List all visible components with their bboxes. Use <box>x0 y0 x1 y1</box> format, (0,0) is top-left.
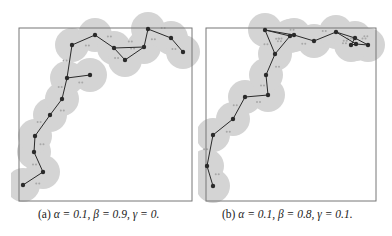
caption-a: (a) α = 0.1, β = 0.9, γ = 0. <box>38 208 159 220</box>
caption-a-params: α = 0.1, β = 0.9, γ = 0. <box>54 208 160 220</box>
figure-canvas <box>0 0 392 236</box>
panel-b-plot <box>190 13 385 203</box>
caption-b-label: (b) <box>222 208 235 220</box>
caption-a-label: (a) <box>38 208 51 220</box>
caption-b: (b) α = 0.1, β = 0.8, γ = 0.1. <box>222 208 353 220</box>
panel-a-plot <box>6 12 200 202</box>
caption-b-params: α = 0.1, β = 0.8, γ = 0.1. <box>238 208 352 220</box>
